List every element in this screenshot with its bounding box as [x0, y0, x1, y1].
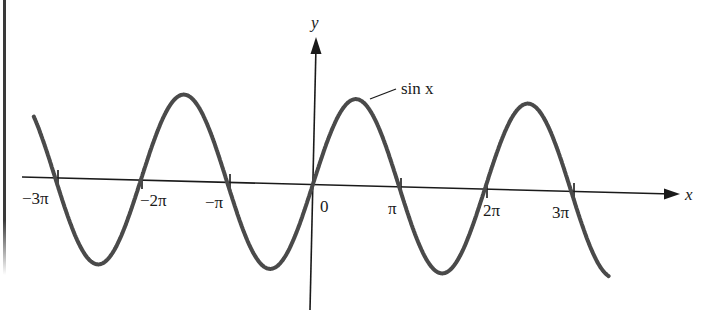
- x-axis-label: x: [685, 186, 693, 203]
- tick-label-negpi: −π: [205, 194, 223, 211]
- y-axis-arrow-icon: [311, 37, 322, 54]
- tick-label-neg3pi: −3π: [22, 190, 49, 207]
- tick-label-zero: 0: [320, 198, 329, 215]
- y-axis-label: y: [311, 14, 319, 31]
- sine-graph-figure: y x sin x −3π −2π −π 0 π 2π 3π: [0, 0, 709, 330]
- plot-area: [0, 0, 709, 330]
- x-axis-arrow-icon: [664, 189, 680, 200]
- tick-label-neg2pi: −2π: [140, 192, 167, 209]
- tick-label-2pi: 2π: [483, 202, 500, 219]
- curve-label: sin x: [401, 80, 434, 97]
- curve-label-leader-line: [370, 89, 396, 99]
- tick-label-pi: π: [388, 200, 397, 217]
- tick-label-3pi: 3π: [552, 204, 569, 221]
- curve-label-text: sin x: [401, 79, 434, 98]
